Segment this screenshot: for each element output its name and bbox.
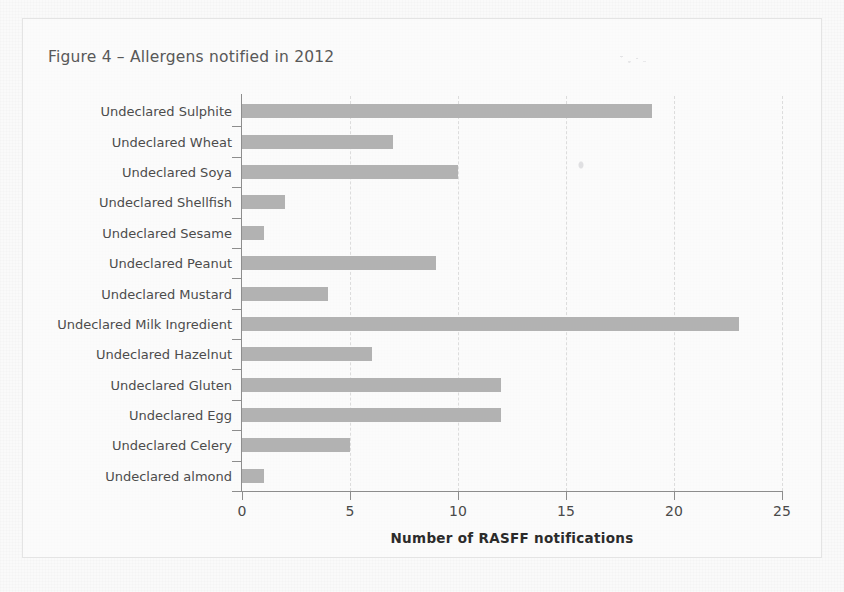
x-tick-label-25: 25 (773, 503, 791, 519)
x-tick-0 (242, 491, 243, 500)
bar-5 (242, 256, 436, 270)
gridline-10 (458, 96, 460, 491)
gridline-25 (782, 96, 784, 491)
category-label-2: Undeclared Soya (122, 164, 232, 179)
category-label-5: Undeclared Peanut (109, 256, 232, 271)
category-label-11: Undeclared Celery (112, 438, 232, 453)
y-tick-0 (232, 126, 241, 127)
category-label-3: Undeclared Shellfish (99, 195, 232, 210)
y-tick-3 (232, 218, 241, 219)
category-label-8: Undeclared Hazelnut (96, 347, 232, 362)
x-tick-label-15: 15 (557, 503, 575, 519)
bar-11 (242, 438, 350, 452)
bar-4 (242, 226, 264, 240)
category-label-1: Undeclared Wheat (112, 134, 232, 149)
bar-7 (242, 317, 739, 331)
category-label-12: Undeclared almond (105, 468, 232, 483)
bar-2 (242, 165, 458, 179)
y-tick-7 (232, 339, 241, 340)
bar-1 (242, 135, 393, 149)
x-axis-title: Number of RASFF notifications (242, 530, 782, 546)
y-tick-6 (232, 309, 241, 310)
y-tick-8 (232, 369, 241, 370)
gridline-20 (674, 96, 676, 491)
y-tick-12 (232, 491, 241, 492)
x-tick-label-0: 0 (238, 503, 247, 519)
bar-10 (242, 408, 501, 422)
category-label-7: Undeclared Milk Ingredient (57, 316, 232, 331)
y-tick-9 (232, 400, 241, 401)
category-label-6: Undeclared Mustard (101, 286, 232, 301)
bar-6 (242, 287, 328, 301)
y-tick-10 (232, 430, 241, 431)
x-axis-line (241, 491, 783, 492)
y-tick-4 (232, 248, 241, 249)
category-label-4: Undeclared Sesame (102, 225, 232, 240)
bar-12 (242, 469, 264, 483)
category-label-9: Undeclared Gluten (111, 377, 232, 392)
gridline-15 (566, 96, 568, 491)
bar-0 (242, 104, 652, 118)
y-tick-1 (232, 157, 241, 158)
x-tick-5 (350, 491, 351, 500)
bar-3 (242, 195, 285, 209)
y-tick-5 (232, 278, 241, 279)
x-tick-label-5: 5 (346, 503, 355, 519)
category-axis-labels: Undeclared SulphiteUndeclared WheatUndec… (0, 0, 232, 592)
x-tick-label-20: 20 (665, 503, 683, 519)
bar-8 (242, 347, 372, 361)
figure-screenshot: Figure 4 – Allergens notified in 2012 Un… (0, 0, 844, 592)
category-label-0: Undeclared Sulphite (101, 104, 232, 119)
x-tick-10 (458, 491, 459, 500)
x-tick-20 (674, 491, 675, 500)
gridline-5 (350, 96, 352, 491)
x-tick-label-10: 10 (449, 503, 467, 519)
y-tick-11 (232, 461, 241, 462)
y-tick-2 (232, 187, 241, 188)
x-tick-15 (566, 491, 567, 500)
x-tick-25 (782, 491, 783, 500)
bar-9 (242, 378, 501, 392)
category-label-10: Undeclared Egg (129, 408, 232, 423)
